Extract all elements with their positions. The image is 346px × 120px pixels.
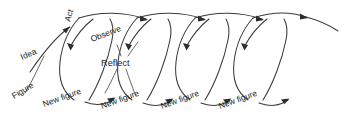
label-new-figure-2: New figure (99, 88, 140, 111)
label-new-figure-4: New figure (217, 88, 258, 111)
label-new-figure-3: New figure (159, 88, 200, 111)
label-act: Act (62, 8, 75, 23)
label-observe: Observe (89, 23, 122, 44)
label-idea: Idea (19, 46, 38, 62)
label-reflect: Reflect (101, 58, 130, 68)
label-layer: Figure Idea Act Observe Reflect New figu… (0, 0, 346, 120)
diagram-canvas: Figure Idea Act Observe Reflect New figu… (0, 0, 346, 120)
label-figure: Figure (10, 80, 36, 101)
label-new-figure-1: New figure (41, 86, 82, 109)
